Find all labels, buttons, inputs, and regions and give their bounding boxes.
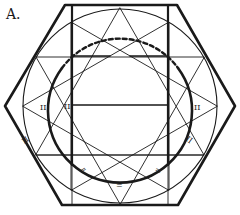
mark-left-upper: II (40, 103, 46, 112)
hexagram-triangle-up (36, 8, 204, 155)
mark-right-upper: II (194, 103, 200, 112)
mark-right-lower: II (64, 102, 70, 111)
thick-circle-solid (48, 68, 192, 183)
inner-rectangle (72, 57, 168, 105)
mark-left-lower: II (20, 135, 30, 146)
mark-bottom-center: = (116, 181, 123, 190)
thick-circle-dashed (62, 39, 178, 68)
hexagon-star-diagram: II II II II = = = II (0, 0, 240, 215)
